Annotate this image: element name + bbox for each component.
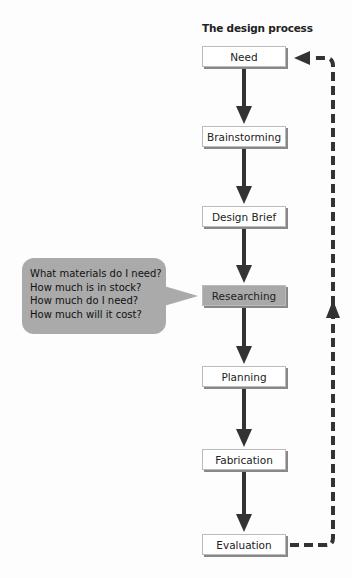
callout-line: How much is in stock? <box>30 281 166 295</box>
design-process-diagram: The design process Wha <box>0 0 352 578</box>
step-fabrication: Fabrication <box>202 449 286 470</box>
research-questions-callout: What materials do I need? How much is in… <box>22 258 166 334</box>
step-researching: Researching <box>202 285 286 306</box>
step-need: Need <box>202 46 286 67</box>
callout-line: How much do I need? <box>30 294 166 308</box>
callout-line: What materials do I need? <box>30 267 166 281</box>
step-brainstorming: Brainstorming <box>202 126 286 147</box>
step-planning: Planning <box>202 366 286 387</box>
callout-line: How much will it cost? <box>30 308 166 322</box>
step-design-brief: Design Brief <box>202 206 286 227</box>
step-evaluation: Evaluation <box>202 534 286 555</box>
